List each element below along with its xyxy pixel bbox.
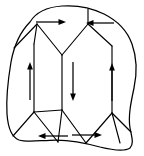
domain-structure-svg: [0, 0, 144, 156]
magnetic-domain-diagram: [0, 0, 144, 156]
